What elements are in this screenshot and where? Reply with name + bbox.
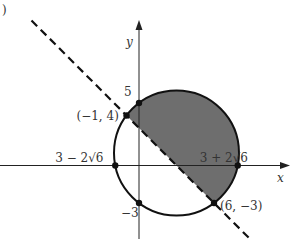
- point-p-6-neg3: [211, 200, 217, 206]
- point-p-neg1-4: [123, 112, 129, 118]
- diagram: ) x y (−1, 4)(6, −3)5−33 − 2√63 + 2√6: [0, 0, 292, 239]
- point-label-y-int-5: 5: [124, 85, 132, 99]
- point-x-int-left: [112, 162, 118, 168]
- x-axis-label: x: [277, 171, 284, 185]
- point-label-y-int-neg3: −3: [121, 206, 139, 220]
- y-axis-arrow-icon: [136, 20, 143, 30]
- point-label-x-int-right: 3 + 2√6: [200, 151, 248, 165]
- y-axis-label: y: [125, 35, 133, 49]
- point-label-p-neg1-4: (−1, 4): [77, 109, 119, 123]
- part-marker: ): [2, 3, 7, 17]
- x-axis-arrow-icon: [280, 162, 290, 169]
- point-label-x-int-left: 3 − 2√6: [55, 151, 103, 165]
- point-label-p-6-neg3: (6, −3): [220, 199, 262, 213]
- point-y-int-5: [136, 100, 142, 106]
